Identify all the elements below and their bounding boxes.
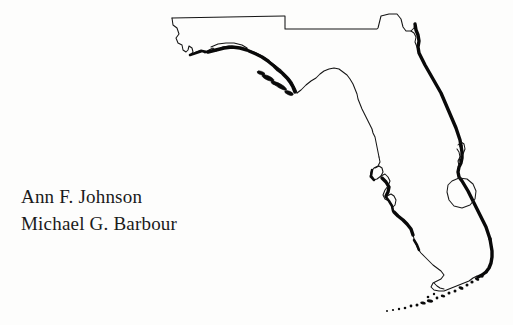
santa-rosa-island-bold-segment: [208, 47, 247, 52]
marco-island-bold-segment: [414, 240, 419, 250]
key-dot: [466, 284, 469, 287]
panama-city-bold-segment: [269, 62, 282, 73]
author-block: Ann F. Johnson Michael G. Barbour: [21, 183, 281, 237]
apalachicola-shoal-blob-a: [257, 70, 266, 76]
author-name-secondary: Michael G. Barbour: [21, 210, 281, 237]
atlantic-coast-central-bold-path: [458, 146, 490, 239]
charlotte-harbor-bold-segment: [386, 197, 393, 211]
florida-map-svg: [0, 0, 513, 325]
key-dot: [386, 310, 388, 312]
key-dot: [392, 309, 394, 311]
key-dot: [470, 280, 473, 283]
atlantic-coast-north-bold-path: [415, 24, 461, 146]
key-dot: [440, 294, 445, 298]
key-dot: [484, 270, 487, 273]
destin-walton-bold-segment: [249, 51, 268, 61]
florida-map-figure: [0, 0, 513, 325]
apalachicola-shoal-blob-b: [270, 80, 277, 86]
western-panhandle-border-path: [172, 18, 193, 55]
key-dot: [427, 299, 434, 303]
key-dot: [433, 293, 435, 295]
key-dot: [410, 305, 413, 308]
key-dot: [404, 307, 407, 310]
northern-state-border-path: [172, 14, 415, 31]
florida-keys-group: [386, 270, 488, 312]
sanibel-naples-bold-segment: [394, 212, 413, 235]
big-bend-coast-path: [297, 68, 379, 157]
sarasota-barrier-bold-segment: [382, 178, 389, 196]
tampa-bay-inlet-path: [375, 166, 383, 176]
key-dot: [436, 297, 439, 300]
key-dot: [448, 292, 451, 295]
key-dot: [420, 301, 426, 305]
pinellas-barrier-bold-segment: [371, 170, 374, 180]
cape-sable-path: [434, 283, 444, 289]
dog-island-blob: [284, 90, 294, 97]
key-dot: [458, 286, 464, 291]
key-dot: [427, 296, 430, 299]
key-dot: [480, 274, 483, 277]
title-page: Ann F. Johnson Michael G. Barbour: [0, 0, 513, 325]
key-dot: [416, 304, 419, 307]
key-dot: [454, 290, 457, 293]
ten-thousand-islands-path: [414, 239, 477, 291]
author-name-primary: Ann F. Johnson: [21, 183, 281, 210]
key-dot: [398, 308, 400, 310]
